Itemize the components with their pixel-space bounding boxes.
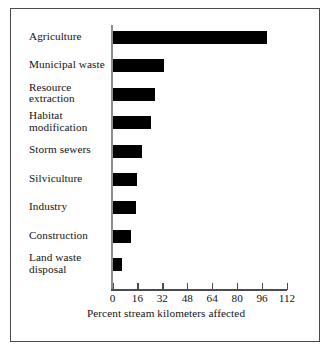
category-label-line: disposal <box>29 264 111 276</box>
x-tick-mark <box>113 283 114 290</box>
bar-agriculture <box>113 31 267 44</box>
category-label-line: Habitat <box>29 110 111 122</box>
x-tick-label: 112 <box>279 292 295 304</box>
category-label-agriculture: Agriculture <box>29 31 111 43</box>
bar-land-waste-disposal <box>113 258 122 271</box>
chart-frame-border: AgricultureMunicipal wasteResourceextrac… <box>10 8 320 342</box>
x-axis-title: Percent stream kilometers affected <box>11 307 321 319</box>
category-label-habitat-modification: Habitatmodification <box>29 110 111 133</box>
category-label-line: Construction <box>29 230 111 242</box>
x-tick-mark <box>262 283 263 290</box>
bar-construction <box>113 230 132 243</box>
bar-resource-extraction <box>113 88 155 101</box>
category-label-resource-extraction: Resourceextraction <box>29 82 111 105</box>
category-label-construction: Construction <box>29 230 111 242</box>
bar-silviculture <box>113 173 138 186</box>
x-tick-mark <box>287 283 288 290</box>
category-label-line: modification <box>29 122 111 134</box>
x-tick-label: 0 <box>110 292 116 304</box>
x-tick-label: 48 <box>182 292 193 304</box>
category-label-municipal-waste: Municipal waste <box>29 59 111 71</box>
x-tick-mark <box>212 283 213 290</box>
x-tick-mark <box>137 283 138 290</box>
category-label-land-waste-disposal: Land wastedisposal <box>29 252 111 275</box>
category-label-silviculture: Silviculture <box>29 173 111 185</box>
x-tick-mark <box>187 283 188 290</box>
category-label-line: Industry <box>29 201 111 213</box>
category-label-line: Storm sewers <box>29 144 111 156</box>
category-label-line: Silviculture <box>29 173 111 185</box>
x-tick-label: 32 <box>157 292 168 304</box>
category-label-line: Municipal waste <box>29 59 111 71</box>
bar-habitat-modification <box>113 116 152 129</box>
x-tick-label: 16 <box>132 292 143 304</box>
bar-municipal-waste <box>113 59 164 72</box>
bar-industry <box>113 201 136 214</box>
x-tick-label: 64 <box>207 292 218 304</box>
category-label-storm-sewers: Storm sewers <box>29 144 111 156</box>
bar-storm-sewers <box>113 145 143 158</box>
category-label-line: extraction <box>29 93 111 105</box>
x-tick-mark <box>237 283 238 290</box>
x-tick-label: 96 <box>256 292 267 304</box>
plot-area: AgricultureMunicipal wasteResourceextrac… <box>11 9 321 343</box>
chart-figure: AgricultureMunicipal wasteResourceextrac… <box>0 0 333 350</box>
x-tick-mark <box>162 283 163 290</box>
x-tick-label: 80 <box>232 292 243 304</box>
category-label-line: Agriculture <box>29 31 111 43</box>
category-label-industry: Industry <box>29 201 111 213</box>
category-label-line: Land waste <box>29 252 111 264</box>
